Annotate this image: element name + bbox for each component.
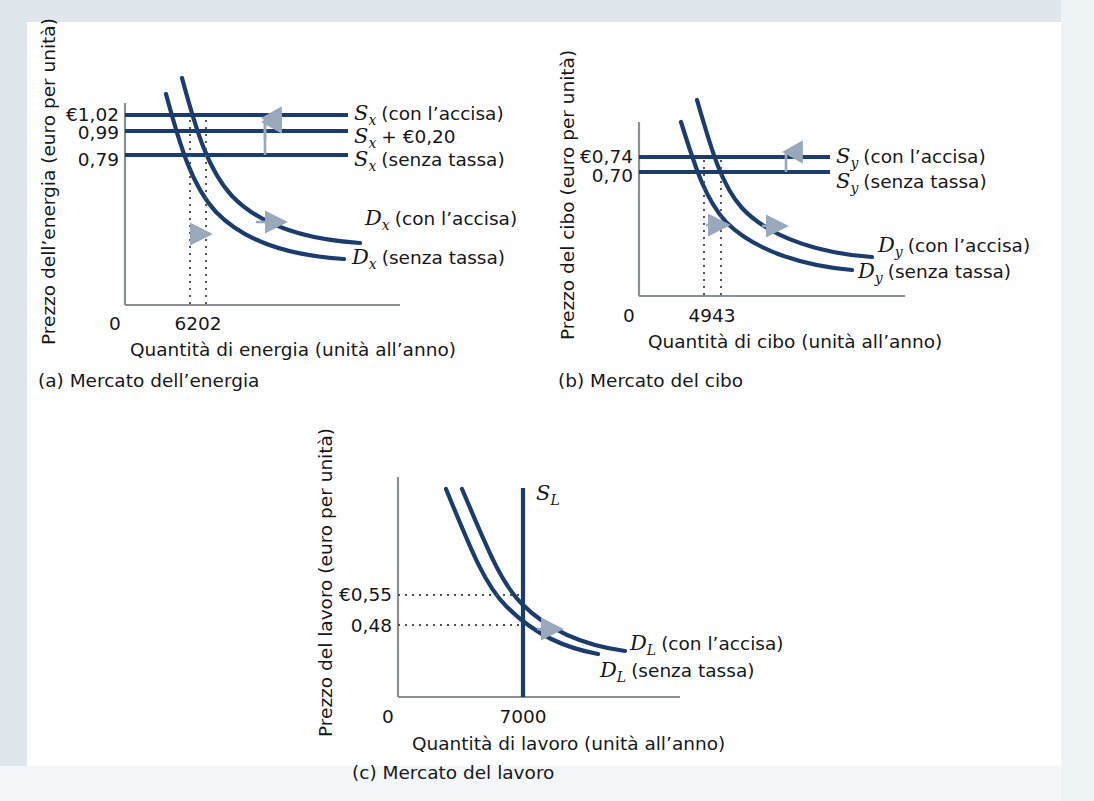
sym: D xyxy=(629,631,647,655)
svg-text:Sy(con l’accisa): Sy(con l’accisa) xyxy=(836,144,986,171)
panel-a-demand-with-tax xyxy=(182,78,360,243)
paren: + €0,20 xyxy=(381,126,455,147)
panel-b-x-axis-title: Quantità di cibo (unità all’anno) xyxy=(648,331,942,352)
panel-a-xtick-0: 6202 xyxy=(174,313,221,334)
paren: (con l’accisa) xyxy=(661,633,783,654)
svg-text:Dx(con l’accisa): Dx(con l’accisa) xyxy=(364,206,517,233)
svg-text:Dy(senza tassa): Dy(senza tassa) xyxy=(857,259,1011,286)
panel-c-label-demand-no-tax: DL(senza tassa) xyxy=(599,658,754,685)
svg-text:Sx+ €0,20: Sx+ €0,20 xyxy=(354,124,456,151)
panel-c-caption: (c) Mercato del lavoro xyxy=(352,762,554,783)
sub: y xyxy=(894,244,904,260)
sym: S xyxy=(536,481,550,505)
panel-a-y-axis-title: Prezzo dell’energia (euro per unità) xyxy=(38,18,59,345)
panel-a-caption: (a) Mercato dell’energia xyxy=(38,370,259,391)
paren: (con l’accisa) xyxy=(908,235,1030,256)
panel-a-origin: 0 xyxy=(109,313,121,334)
panel-b-label-demand-with-tax: Dy(con l’accisa) xyxy=(877,233,1030,260)
panel-b-xtick-0: 4943 xyxy=(688,305,735,326)
panel-a-label-demand-no-tax: Dx(senza tassa) xyxy=(351,245,505,272)
sub: y xyxy=(874,270,884,286)
sym: S xyxy=(354,124,368,148)
sym: D xyxy=(364,206,382,230)
panel-b-label-supply-no-tax: Sy(senza tassa) xyxy=(836,169,987,196)
sub: L xyxy=(616,669,626,685)
paren: (con l’accisa) xyxy=(395,208,517,229)
sub: x xyxy=(369,256,377,272)
svg-text:Sy(senza tassa): Sy(senza tassa) xyxy=(836,169,987,196)
panel-b-ytick-0: €0,74 xyxy=(580,146,633,167)
svg-text:Dx(senza tassa): Dx(senza tassa) xyxy=(351,245,505,272)
panel-c-xtick-0: 7000 xyxy=(499,706,546,727)
paren: (senza tassa) xyxy=(382,247,505,268)
sub: x xyxy=(368,135,376,151)
sym: S xyxy=(836,169,850,193)
sym: D xyxy=(351,245,369,269)
panel-a-label-demand-with-tax: Dx(con l’accisa) xyxy=(364,206,517,233)
panel-a-label-supply-no-tax: Sx(senza tassa) xyxy=(354,147,505,174)
panel-a-ytick-2: 0,79 xyxy=(78,149,119,170)
sym: S xyxy=(354,101,368,125)
paren: (senza tassa) xyxy=(631,660,754,681)
panel-b-y-axis-title: Prezzo del cibo (euro per unità) xyxy=(557,50,578,340)
panel-b-label-demand-no-tax: Dy(senza tassa) xyxy=(857,259,1011,286)
panel-c-ytick-0: €0,55 xyxy=(339,584,392,605)
sub: y xyxy=(849,155,859,171)
panel-a-label-supply-plus: Sx+ €0,20 xyxy=(354,124,456,151)
panel-b-caption: (b) Mercato del cibo xyxy=(558,370,743,391)
svg-text:Sx(con l’accisa): Sx(con l’accisa) xyxy=(354,101,504,128)
panel-c-origin: 0 xyxy=(382,706,394,727)
panel-c-ytick-1: 0,48 xyxy=(351,615,392,636)
panel-b-demand-no-tax xyxy=(681,122,852,270)
svg-text:Dy(con l’accisa): Dy(con l’accisa) xyxy=(877,233,1030,260)
paren: (senza tassa) xyxy=(381,149,504,170)
sym: D xyxy=(599,658,617,682)
sym: D xyxy=(877,233,895,257)
svg-text:Sx(senza tassa): Sx(senza tassa) xyxy=(354,147,505,174)
sub: L xyxy=(549,492,559,508)
sub: x xyxy=(368,112,376,128)
sym: S xyxy=(836,144,850,168)
paren: (con l’accisa) xyxy=(863,146,985,167)
paren: (senza tassa) xyxy=(888,261,1011,282)
panel-a-ytick-1: 0,99 xyxy=(78,122,119,143)
sym: D xyxy=(857,259,875,283)
paren: (con l’accisa) xyxy=(381,103,503,124)
panel-c-x-axis-title: Quantità di lavoro (unità all’anno) xyxy=(412,733,725,754)
panel-a-x-axis-title: Quantità di energia (unità all’anno) xyxy=(130,339,456,360)
panel-c-y-axis-title: Prezzo del lavoro (euro per unità) xyxy=(315,428,336,737)
panel-b: €0,74 0,70 0 4943 Prezzo del cibo (euro … xyxy=(557,50,1030,391)
paren: (senza tassa) xyxy=(863,171,986,192)
sym: S xyxy=(354,147,368,171)
sub: x xyxy=(368,158,376,174)
panel-b-label-supply-with-tax: Sy(con l’accisa) xyxy=(836,144,986,171)
figure-root: €1,02 0,99 0,79 0 6202 Prezzo dell’energ… xyxy=(0,0,1094,801)
svg-text:DL(con l’accisa): DL(con l’accisa) xyxy=(629,631,784,658)
panel-b-ytick-1: 0,70 xyxy=(592,165,633,186)
panel-a: €1,02 0,99 0,79 0 6202 Prezzo dell’energ… xyxy=(38,18,517,391)
sub: y xyxy=(849,180,859,196)
sub: x xyxy=(382,217,390,233)
svg-text:SL: SL xyxy=(536,481,560,508)
sub: L xyxy=(646,642,656,658)
panel-c-label-demand-with-tax: DL(con l’accisa) xyxy=(629,631,784,658)
svg-text:DL(senza tassa): DL(senza tassa) xyxy=(599,658,754,685)
panel-b-origin: 0 xyxy=(623,305,635,326)
panel-a-label-supply-with-tax: Sx(con l’accisa) xyxy=(354,101,504,128)
panel-c-label-supply-vertical: SL xyxy=(536,481,560,508)
figure-svg: €1,02 0,99 0,79 0 6202 Prezzo dell’energ… xyxy=(0,0,1094,801)
panel-c: €0,55 0,48 0 7000 Prezzo del lavoro (eur… xyxy=(315,428,784,783)
panel-c-demand-with-tax xyxy=(462,489,625,651)
